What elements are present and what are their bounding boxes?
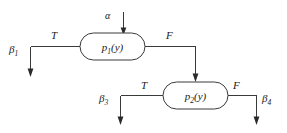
beta4-arrow-head-icon [254, 117, 260, 126]
terminal-beta1-label: β1 [8, 43, 18, 58]
p2-false-label: F [232, 79, 240, 91]
flow-diagram-canvas: α T β1 p1(y) F T β3 [0, 0, 287, 133]
p2-entry-arrow-head-icon [193, 74, 199, 83]
alpha-input-label: α [105, 10, 111, 21]
p2-false-edge [228, 96, 259, 126]
p1-false-label: F [165, 29, 173, 41]
p2-true-edge [118, 96, 163, 126]
alpha-input-edge [121, 12, 127, 35]
node-p1[interactable]: p1(y) [80, 33, 145, 60]
p1-false-edge [145, 47, 198, 83]
p2-true-label: T [141, 79, 148, 91]
terminal-beta3-label: β3 [98, 92, 108, 107]
beta3-arrow-head-icon [118, 117, 124, 126]
p1-true-label: T [51, 29, 58, 41]
terminal-beta4-label: β4 [261, 92, 271, 107]
node-p2[interactable]: p2(y) [163, 82, 228, 109]
predicate-flow-diagram: α T β1 p1(y) F T β3 [0, 0, 287, 133]
beta1-arrow-head-icon [28, 69, 34, 78]
p1-true-edge [28, 47, 80, 78]
